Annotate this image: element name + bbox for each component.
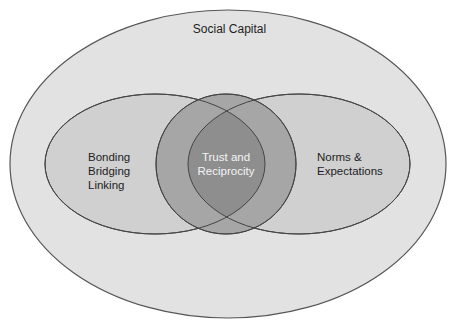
social-capital-label: Social Capital xyxy=(0,22,459,36)
center-set-label: Trust and Reciprocity xyxy=(176,150,276,178)
center-label-line-1: Trust and xyxy=(176,150,276,164)
right-set-label: Norms & Expectations xyxy=(317,150,383,178)
center-label-line-2: Reciprocity xyxy=(176,164,276,178)
left-label-line-3: Linking xyxy=(88,178,130,192)
right-label-line-1: Norms & xyxy=(317,150,383,164)
left-label-line-2: Bridging xyxy=(88,164,130,178)
right-label-line-2: Expectations xyxy=(317,164,383,178)
outer-label-text: Social Capital xyxy=(0,22,459,36)
left-set-label: Bonding Bridging Linking xyxy=(88,150,130,192)
left-label-line-1: Bonding xyxy=(88,150,130,164)
